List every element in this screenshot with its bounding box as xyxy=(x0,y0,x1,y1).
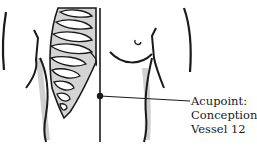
right-arm-line xyxy=(184,8,191,72)
left-arm-line xyxy=(3,12,6,70)
left-armpit-line xyxy=(26,30,38,88)
diagram-canvas: Acupoint: Conception Vessel 12 xyxy=(0,0,257,152)
right-armpit-line xyxy=(152,28,164,88)
breast-outline xyxy=(110,52,152,62)
acupoint-label-line-2: Conception xyxy=(191,108,257,122)
acupoint-label: Acupoint: Conception Vessel 12 xyxy=(191,94,257,136)
nipple-mark xyxy=(135,40,141,44)
acupoint-label-line-3: Vessel 12 xyxy=(191,122,257,136)
acupoint-label-line-1: Acupoint: xyxy=(191,94,257,108)
